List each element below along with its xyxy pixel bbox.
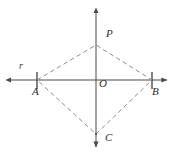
point-label-c: C [105, 132, 112, 143]
point-label-a: A [32, 86, 39, 97]
geometry-figure: P O A B C r [0, 0, 178, 153]
vertex-point-c [95, 133, 97, 135]
line-label-r: r [19, 61, 23, 71]
point-label-o: O [99, 78, 107, 89]
point-label-p: P [106, 28, 113, 39]
rhombus-apbc [37, 45, 152, 134]
geometry-canvas [0, 0, 178, 153]
point-label-b: B [152, 86, 159, 97]
